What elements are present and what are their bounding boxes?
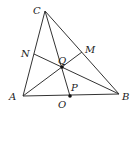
geometry-diagram: C N M Q A B P O — [0, 0, 136, 146]
label-o: O — [58, 99, 66, 110]
label-a: A — [8, 91, 16, 102]
label-b: B — [121, 91, 129, 102]
label-p: P — [70, 82, 78, 93]
segment-cp — [45, 11, 70, 96]
label-m: M — [84, 44, 96, 55]
label-n: N — [20, 48, 31, 59]
label-q: Q — [58, 55, 66, 66]
point-p-dot — [68, 94, 72, 98]
label-c: C — [33, 5, 41, 16]
